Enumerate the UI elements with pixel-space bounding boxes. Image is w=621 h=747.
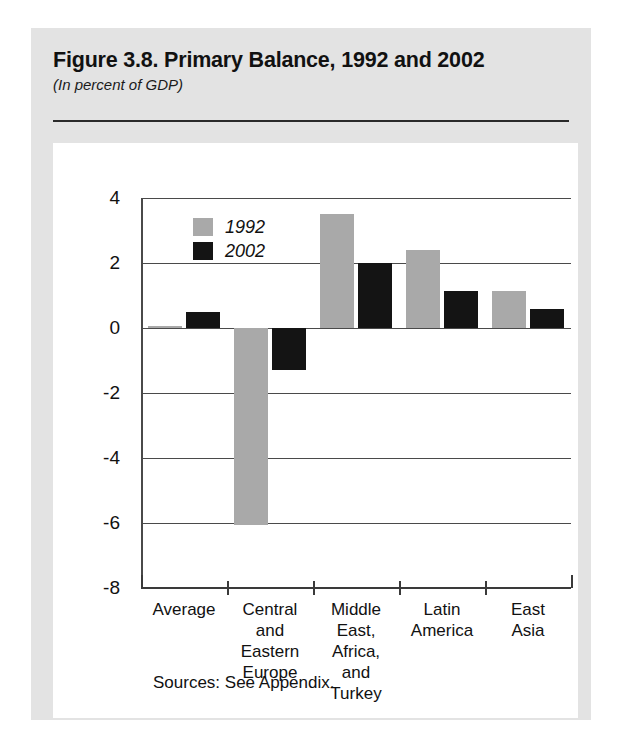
bar-2002-1 <box>272 328 306 370</box>
source-note: Sources: See Appendix. <box>153 673 334 693</box>
legend-swatch-1992 <box>193 218 213 236</box>
bar-2002-0 <box>186 312 220 328</box>
x-category-label-line: East <box>485 599 571 620</box>
x-category-label-line: America <box>399 620 485 641</box>
legend-item-2002: 2002 <box>193 239 265 263</box>
header-divider <box>53 120 569 122</box>
legend-label-1992: 1992 <box>225 217 265 238</box>
x-category-label-line: Eastern <box>227 641 313 662</box>
x-category-label-line: and <box>227 620 313 641</box>
x-category-label-line: Asia <box>485 620 571 641</box>
gridline <box>141 458 571 459</box>
x-category-label-4: EastAsia <box>485 599 571 641</box>
bar-1992-4 <box>492 291 526 328</box>
y-tick-label: -4 <box>80 447 120 469</box>
bar-2002-4 <box>530 309 564 329</box>
chart-legend: 19922002 <box>193 215 265 263</box>
figure-subtitle: (In percent of GDP) <box>53 76 569 93</box>
bar-1992-0 <box>148 326 182 328</box>
y-tick-label: 0 <box>80 317 120 339</box>
gridline <box>141 198 571 199</box>
bar-1992-1 <box>234 328 268 525</box>
gridline <box>141 523 571 524</box>
bar-2002-2 <box>358 263 392 328</box>
y-tick-label: -8 <box>80 577 120 599</box>
x-category-label-line: Africa, <box>313 641 399 662</box>
x-category-label-line: Average <box>141 599 227 620</box>
x-axis-end-cap <box>141 575 143 588</box>
gridline <box>141 263 571 264</box>
bar-1992-2 <box>320 214 354 328</box>
legend-label-2002: 2002 <box>225 241 265 262</box>
bar-chart-plot: 420-2-4-6-8 19922002 AverageCentralandEa… <box>53 143 578 718</box>
gridline <box>141 328 571 329</box>
x-axis-tick <box>399 581 401 595</box>
x-category-label-line: Latin <box>399 599 485 620</box>
y-tick-label: 4 <box>80 187 120 209</box>
x-category-label-line: East, <box>313 620 399 641</box>
y-tick-label: 2 <box>80 252 120 274</box>
figure-page: Figure 3.8. Primary Balance, 1992 and 20… <box>31 28 591 720</box>
x-category-label-3: LatinAmerica <box>399 599 485 641</box>
x-axis-line <box>141 587 571 589</box>
figure-heading: Figure 3.8. Primary Balance, 1992 and 20… <box>53 48 569 93</box>
x-category-label-1: CentralandEasternEurope <box>227 599 313 683</box>
y-tick-label: -6 <box>80 512 120 534</box>
x-category-label-line: Middle <box>313 599 399 620</box>
x-axis-tick <box>485 581 487 595</box>
legend-item-1992: 1992 <box>193 215 265 239</box>
chart-card: 420-2-4-6-8 19922002 AverageCentralandEa… <box>53 143 578 718</box>
x-axis-tick <box>313 581 315 595</box>
bar-1992-3 <box>406 250 440 328</box>
bar-2002-3 <box>444 291 478 328</box>
x-axis-tick <box>227 581 229 595</box>
page-title: Figure 3.8. Primary Balance, 1992 and 20… <box>53 48 569 73</box>
x-category-label-0: Average <box>141 599 227 620</box>
y-tick-label: -2 <box>80 382 120 404</box>
x-axis-end-cap <box>571 575 573 588</box>
legend-swatch-2002 <box>193 242 213 260</box>
gridline <box>141 393 571 394</box>
x-category-label-line: Central <box>227 599 313 620</box>
